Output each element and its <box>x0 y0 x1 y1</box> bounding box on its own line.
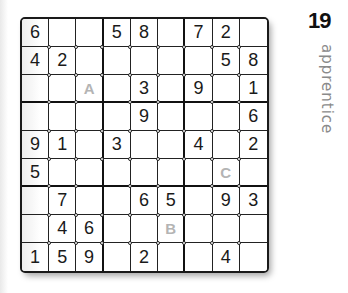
grid-cell-r7c3[interactable] <box>76 187 103 215</box>
grid-junction-dot <box>100 157 104 161</box>
grid-cell-r5c6[interactable] <box>158 131 185 159</box>
grid-cell-r6c1[interactable]: 5 <box>22 159 49 187</box>
grid-cell-r2c8[interactable]: 5 <box>213 47 240 75</box>
grid-cell-r8c2[interactable]: 4 <box>49 215 76 243</box>
grid-cell-r3c4[interactable] <box>104 75 131 103</box>
grid-cell-r3c7[interactable]: 9 <box>185 75 212 103</box>
grid-cell-r5c9[interactable]: 2 <box>240 131 267 159</box>
grid-cell-r4c4[interactable] <box>104 103 131 131</box>
grid-cell-r1c6[interactable] <box>158 19 185 47</box>
grid-cell-r4c8[interactable] <box>213 103 240 131</box>
grid-cell-r9c4[interactable] <box>104 243 131 271</box>
cell-digit: 9 <box>221 190 231 211</box>
grid-cell-r6c7[interactable] <box>185 159 212 187</box>
grid-cell-r7c7[interactable] <box>185 187 212 215</box>
grid-cell-r3c6[interactable] <box>158 75 185 103</box>
grid-cell-r3c3[interactable]: A <box>76 75 103 103</box>
grid-cell-r1c2[interactable] <box>49 19 76 47</box>
grid-cell-r1c9[interactable] <box>240 19 267 47</box>
grid-cell-r5c3[interactable] <box>76 131 103 159</box>
grid-cell-r2c1[interactable]: 4 <box>22 47 49 75</box>
grid-cell-r1c5[interactable]: 8 <box>131 19 158 47</box>
grid-cell-r8c7[interactable] <box>185 215 212 243</box>
grid-cell-r5c7[interactable]: 4 <box>185 131 212 159</box>
grid-cell-r2c3[interactable] <box>76 47 103 75</box>
grid-cell-r6c9[interactable] <box>240 159 267 187</box>
grid-cell-r4c5[interactable]: 9 <box>131 103 158 131</box>
grid-cell-r1c4[interactable]: 5 <box>104 19 131 47</box>
grid-junction-dot <box>128 241 132 245</box>
grid-cell-r2c9[interactable]: 8 <box>240 47 267 75</box>
grid-cell-r4c6[interactable] <box>158 103 185 131</box>
grid-cell-r4c2[interactable] <box>49 103 76 131</box>
grid-cell-r2c2[interactable]: 2 <box>49 47 76 75</box>
grid-cell-r3c1[interactable] <box>22 75 49 103</box>
grid-cell-r7c1[interactable] <box>22 187 49 215</box>
grid-cell-r9c8[interactable]: 4 <box>213 243 240 271</box>
grid-cell-r2c6[interactable] <box>158 47 185 75</box>
grid-cell-r6c4[interactable] <box>104 159 131 187</box>
grid-cell-r5c8[interactable] <box>213 131 240 159</box>
grid-cell-r5c1[interactable]: 9 <box>22 131 49 159</box>
grid-cell-r8c6[interactable]: B <box>158 215 185 243</box>
grid-cell-r9c9[interactable] <box>240 243 267 271</box>
grid-junction-dot <box>182 73 186 77</box>
grid-junction-dot <box>47 184 51 188</box>
grid-cell-r9c3[interactable]: 9 <box>76 243 103 271</box>
grid-cell-r6c5[interactable] <box>131 159 158 187</box>
grid-cell-r7c4[interactable] <box>104 187 131 215</box>
grid-cell-r3c5[interactable]: 3 <box>131 75 158 103</box>
grid-cell-r5c5[interactable] <box>131 131 158 159</box>
grid-cell-r1c8[interactable]: 2 <box>213 19 240 47</box>
grid-junction-dot <box>237 213 241 217</box>
grid-cell-r3c8[interactable] <box>213 75 240 103</box>
grid-cell-r9c2[interactable]: 5 <box>49 243 76 271</box>
grid-cell-r4c1[interactable] <box>22 103 49 131</box>
grid-cell-r9c6[interactable] <box>158 243 185 271</box>
cell-digit: 9 <box>30 134 40 155</box>
grid-cell-r1c1[interactable]: 6 <box>22 19 49 47</box>
grid-cell-r3c2[interactable] <box>49 75 76 103</box>
grid-cell-r7c6[interactable]: 5 <box>158 187 185 215</box>
grid-cell-r2c5[interactable] <box>131 47 158 75</box>
grid-junction-dot <box>47 213 51 217</box>
grid-cell-r6c2[interactable] <box>49 159 76 187</box>
grid-junction-dot <box>100 45 104 49</box>
grid-cell-r4c7[interactable] <box>185 103 212 131</box>
grid-junction-dot <box>74 100 78 104</box>
grid-cell-r2c7[interactable] <box>185 47 212 75</box>
grid-cell-r8c9[interactable] <box>240 215 267 243</box>
grid-cell-r9c1[interactable]: 1 <box>22 243 49 271</box>
difficulty-label: apprentice <box>318 44 336 134</box>
cell-digit: 1 <box>30 247 40 268</box>
grid-junction-dot <box>74 157 78 161</box>
grid-cell-r3c9[interactable]: 1 <box>240 75 267 103</box>
grid-cell-r5c2[interactable]: 1 <box>49 131 76 159</box>
grid-junction-dot <box>156 129 160 133</box>
grid-cell-r8c4[interactable] <box>104 215 131 243</box>
cell-digit: 5 <box>221 50 231 71</box>
grid-cell-r6c8[interactable]: C <box>213 159 240 187</box>
grid-cell-r1c7[interactable]: 7 <box>185 19 212 47</box>
grid-junction-dot <box>47 129 51 133</box>
cell-marker-label: B <box>165 220 176 237</box>
grid-cell-r8c8[interactable] <box>213 215 240 243</box>
grid-cell-r2c4[interactable] <box>104 47 131 75</box>
grid-cell-r9c7[interactable] <box>185 243 212 271</box>
grid-junction-dot <box>237 129 241 133</box>
grid-cell-r6c6[interactable] <box>158 159 185 187</box>
grid-cell-r8c5[interactable] <box>131 215 158 243</box>
cell-digit: 5 <box>57 247 67 268</box>
grid-cell-r7c8[interactable]: 9 <box>213 187 240 215</box>
grid-cell-r4c9[interactable]: 6 <box>240 103 267 131</box>
grid-cell-r6c3[interactable] <box>76 159 103 187</box>
grid-cell-r8c3[interactable]: 6 <box>76 215 103 243</box>
grid-cell-r8c1[interactable] <box>22 215 49 243</box>
grid-cell-r5c4[interactable]: 3 <box>104 131 131 159</box>
grid-cell-r4c3[interactable] <box>76 103 103 131</box>
grid-cell-r7c9[interactable]: 3 <box>240 187 267 215</box>
grid-cell-r9c5[interactable]: 2 <box>131 243 158 271</box>
grid-cell-r7c5[interactable]: 6 <box>131 187 158 215</box>
grid-cell-r7c2[interactable]: 7 <box>49 187 76 215</box>
grid-cell-r1c3[interactable] <box>76 19 103 47</box>
